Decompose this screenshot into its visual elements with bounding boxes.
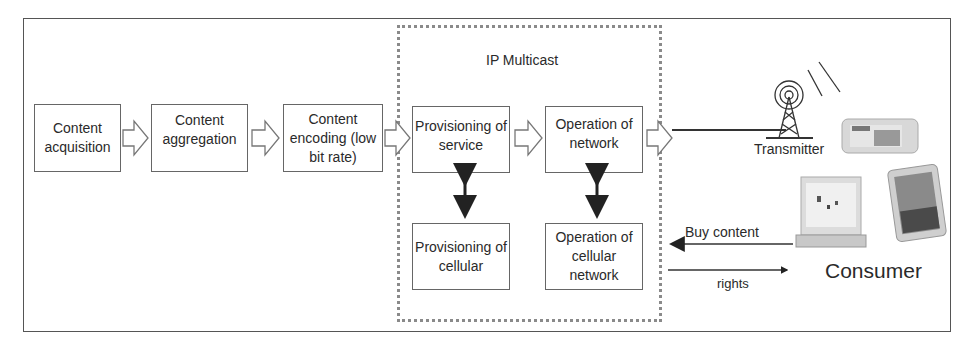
buy-content-label: Buy content — [685, 224, 759, 240]
laptop-icon — [796, 177, 866, 247]
block-arrow-1 — [123, 121, 148, 155]
block-arrow-3 — [385, 121, 410, 155]
rights-label: rights — [717, 276, 749, 291]
block-arrow-5 — [647, 121, 672, 155]
block-arrow-2 — [252, 121, 279, 155]
handheld-device-icon — [842, 119, 918, 153]
connectors — [0, 0, 974, 349]
transmitter-tower-icon — [766, 62, 840, 138]
transmitter-label: Transmitter — [754, 141, 824, 157]
consumer-label: Consumer — [825, 259, 922, 283]
tablet-device-icon — [887, 164, 947, 242]
block-arrow-4 — [515, 121, 542, 155]
